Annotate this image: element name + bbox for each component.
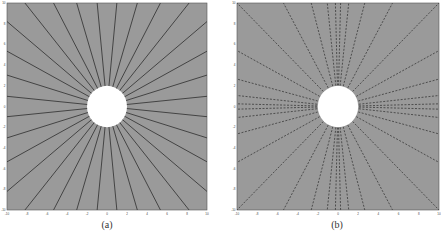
x-tick-label: 10 [437, 212, 441, 215]
x-tick-label: 6 [166, 212, 168, 215]
y-tick-label: 6 [234, 42, 236, 46]
caption-b: (b) [317, 219, 357, 230]
x-tick-label: 2 [357, 212, 359, 215]
x-tick-label: 8 [186, 212, 188, 215]
x-tick-label: -10 [5, 212, 10, 215]
x-tick-label: -4 [296, 212, 299, 215]
x-tick-label: 0 [337, 212, 339, 215]
y-tick-label: -4 [3, 146, 6, 150]
y-tick-label: -8 [233, 187, 236, 191]
center-hole [87, 86, 127, 127]
x-tick-label: 10 [205, 212, 209, 215]
radial-plot-b: -10-8-6-4-20246810-10-8-6-4-20246810 [220, 0, 441, 215]
y-tick-label: 8 [234, 22, 236, 26]
x-tick-label: -8 [256, 212, 259, 215]
y-tick-label: 2 [234, 84, 236, 88]
y-tick-label: -10 [231, 208, 236, 212]
x-tick-label: -4 [66, 212, 69, 215]
y-tick-label: 4 [4, 63, 6, 67]
panel-b: -10-8-6-4-20246810-10-8-6-4-20246810 [220, 0, 441, 215]
y-tick-label: -6 [233, 167, 236, 171]
y-tick-label: 4 [234, 63, 236, 67]
x-tick-label: 4 [378, 212, 380, 215]
y-tick-label: 10 [2, 1, 6, 5]
x-tick-label: 6 [398, 212, 400, 215]
y-tick-label: -4 [233, 146, 236, 150]
x-tick-label: -2 [316, 212, 319, 215]
y-tick-label: -6 [3, 167, 6, 171]
center-hole [318, 86, 358, 127]
x-tick-label: -10 [235, 212, 240, 215]
x-tick-label: 8 [418, 212, 420, 215]
x-tick-label: -2 [86, 212, 89, 215]
y-tick-label: 0 [4, 105, 6, 109]
radial-plot-a: -10-8-6-4-20246810-10-8-6-4-20246810 [0, 0, 220, 215]
x-tick-label: -8 [26, 212, 29, 215]
x-tick-label: 0 [106, 212, 108, 215]
y-tick-label: -8 [3, 187, 6, 191]
x-tick-label: 2 [126, 212, 128, 215]
x-tick-label: -6 [46, 212, 49, 215]
caption-a: (a) [87, 219, 127, 230]
y-tick-label: 2 [4, 84, 6, 88]
x-tick-label: -6 [276, 212, 279, 215]
y-tick-label: 8 [4, 22, 6, 26]
y-tick-label: 6 [4, 42, 6, 46]
y-tick-label: -2 [233, 125, 236, 129]
y-tick-label: 0 [234, 105, 236, 109]
x-tick-label: 4 [146, 212, 148, 215]
panel-a: -10-8-6-4-20246810-10-8-6-4-20246810 [0, 0, 220, 215]
y-tick-label: -10 [1, 208, 6, 212]
y-tick-label: 10 [232, 1, 236, 5]
y-tick-label: -2 [3, 125, 6, 129]
